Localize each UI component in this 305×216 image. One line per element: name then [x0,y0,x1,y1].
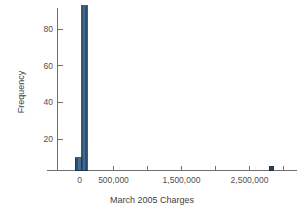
y-tick-label-80: 80 [44,24,54,34]
x-axis-title: March 2005 Charges [110,195,195,205]
y-axis-title: Frequency [16,70,26,113]
bar-outlier-bin [269,166,273,170]
y-tick-label-20: 20 [44,134,54,144]
x-tick-label-0: 0 [77,175,82,185]
histogram-figure: 20 40 60 80 0 500,000 1,500,000 2,500,00… [0,0,305,216]
x-tick-label-1500000: 1,500,000 [163,175,201,185]
y-axis-ticks: 20 40 60 80 [44,24,63,144]
histogram-bars [75,6,273,171]
x-axis-ticks: 0 500,000 1,500,000 2,500,000 [77,166,283,186]
bar-peak-bin-highlight [83,6,85,170]
y-tick-label-40: 40 [44,97,54,107]
x-tick-label-500000: 500,000 [98,175,129,185]
y-tick-label-60: 60 [44,61,54,71]
chart-canvas: 20 40 60 80 0 500,000 1,500,000 2,500,00… [0,0,305,216]
bar-low-bin-highlight [78,158,81,170]
x-tick-label-2500000: 2,500,000 [231,175,269,185]
